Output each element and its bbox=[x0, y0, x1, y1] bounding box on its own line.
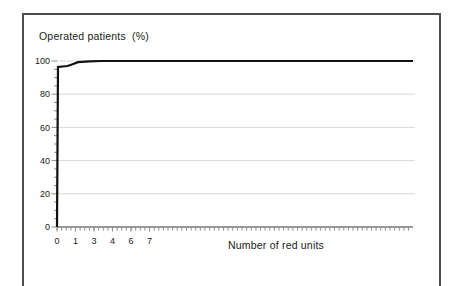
svg-text:100: 100 bbox=[35, 56, 50, 66]
svg-text:60: 60 bbox=[40, 123, 50, 133]
svg-text:1: 1 bbox=[73, 236, 78, 246]
svg-text:0: 0 bbox=[45, 222, 50, 232]
svg-text:3: 3 bbox=[92, 236, 97, 246]
svg-text:40: 40 bbox=[40, 156, 50, 166]
svg-text:4: 4 bbox=[110, 236, 115, 246]
svg-text:20: 20 bbox=[40, 189, 50, 199]
svg-text:0: 0 bbox=[54, 236, 59, 246]
data-series-line bbox=[57, 61, 413, 227]
x-axis-label: Number of red units bbox=[228, 239, 324, 251]
svg-text:80: 80 bbox=[40, 89, 50, 99]
svg-text:6: 6 bbox=[129, 236, 134, 246]
svg-text:7: 7 bbox=[147, 236, 152, 246]
line-chart-plot: 020406080100013467 bbox=[0, 0, 454, 286]
